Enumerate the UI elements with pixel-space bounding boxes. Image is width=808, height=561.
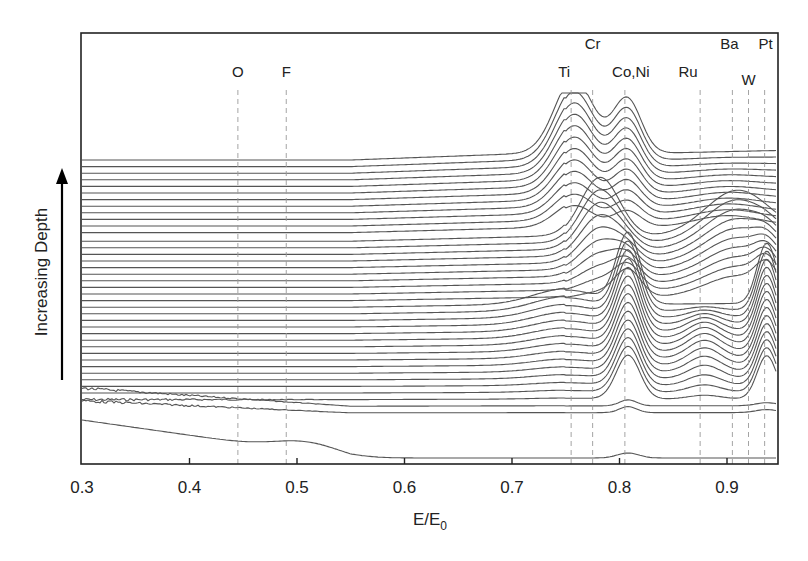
y-axis-title: Increasing Depth [32,208,51,337]
spectrum-trace [82,103,776,173]
element-label: Ba [720,35,739,52]
spectrum-trace [82,420,776,458]
element-label: Ti [558,63,570,80]
spectra-traces [82,93,776,458]
x-tick-label: 0.5 [285,478,309,497]
spectrum-trace [82,232,776,307]
spectrum-trace [82,388,776,406]
spectrum-trace [82,183,776,220]
element-label: Cr [585,35,601,52]
element-label: Pt [759,35,774,52]
spectrum-trace [82,302,776,360]
spectrum-trace [82,137,776,193]
spectrum-trace [82,93,776,167]
spectrum-trace [82,329,776,380]
x-tick-label: 0.8 [608,478,632,497]
x-tick-label: 0.6 [393,478,417,497]
depth-arrow-icon [56,168,68,380]
spectrum-trace [82,294,776,354]
element-label: O [232,63,244,80]
element-label: F [282,63,291,80]
x-tick-label: 0.4 [178,478,202,497]
chart: 0.30.40.50.60.70.80.9 OFTiCrCo,NiRuBaWPt… [0,0,808,561]
element-labels: OFTiCrCo,NiRuBaWPt [232,35,773,88]
element-label: W [741,71,756,88]
spectrum-trace [82,93,776,160]
x-axis-title: E/E0 [413,510,447,533]
x-tick-label: 0.3 [70,478,94,497]
element-label: Co,Ni [612,63,650,80]
x-tick-label: 0.9 [715,478,739,497]
spectrum-trace [82,149,776,200]
x-tick-label: 0.7 [500,478,524,497]
element-label: Ru [679,63,698,80]
